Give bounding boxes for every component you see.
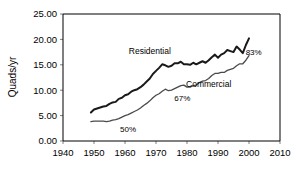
- y-tick-label: 25.00: [33, 8, 57, 19]
- x-tick-label: 1980: [176, 147, 197, 158]
- annotation-50pct: 50%: [120, 125, 136, 134]
- x-tick-label: 1940: [52, 147, 73, 158]
- x-tick-label: 2000: [238, 147, 259, 158]
- y-tick-label: 5.00: [39, 110, 58, 121]
- series-label-commercial: Commercial: [186, 79, 231, 89]
- y-tick-label: 15.00: [33, 59, 57, 70]
- y-axis-title-text: Quads/yr: [7, 56, 18, 97]
- x-tick-label: 2010: [269, 147, 290, 158]
- x-tick-label: 1990: [207, 147, 228, 158]
- series-label-residential: Residential: [129, 46, 171, 56]
- y-tick-label: 0.00: [39, 135, 58, 146]
- x-tick-label: 1950: [83, 147, 104, 158]
- y-tick-label: 10.00: [33, 85, 57, 96]
- chart-container: 0.005.0010.0015.0020.0025.00 19401950196…: [0, 0, 302, 172]
- line-chart: 0.005.0010.0015.0020.0025.00 19401950196…: [0, 0, 302, 172]
- y-axis-title: Quads/yr: [7, 56, 18, 97]
- annotation-83pct: 83%: [246, 48, 262, 57]
- x-tick-label: 1970: [145, 147, 166, 158]
- annotation-67pct: 67%: [174, 94, 190, 103]
- y-tick-label: 20.00: [33, 34, 57, 45]
- x-tick-label: 1960: [114, 147, 135, 158]
